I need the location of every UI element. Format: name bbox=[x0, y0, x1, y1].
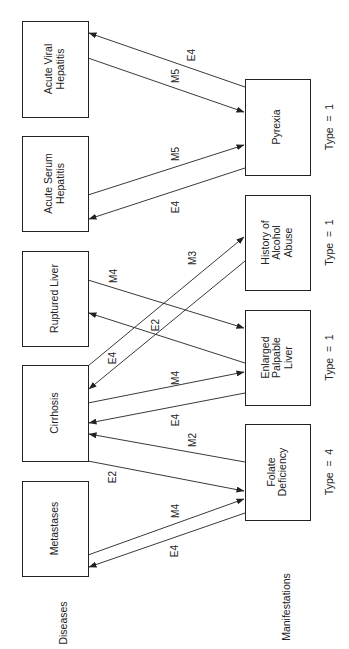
column-label-diseases: Diseases bbox=[57, 601, 69, 644]
column-label-manifestations: Manifestations bbox=[280, 573, 292, 641]
node-label: Liver bbox=[282, 346, 294, 369]
boxes-layer: Acute ViralHepatitisAcute SerumHepatitis… bbox=[23, 22, 335, 577]
type-label: Type = 1 bbox=[323, 334, 335, 381]
node-label: Palpable bbox=[270, 337, 282, 378]
node-label: Hepatitis bbox=[54, 49, 66, 90]
manifestation-node-folate: FolateDeficiencyType = 4 bbox=[246, 425, 335, 521]
edge-pyrexia-to-acute_viral: E4 bbox=[89, 33, 245, 87]
node-label: Enlarged bbox=[259, 336, 271, 378]
labels-layer: Diseases Manifestations bbox=[57, 573, 292, 644]
disease-node-ruptured: Ruptured Liver bbox=[23, 252, 89, 347]
node-label: Abuse bbox=[282, 227, 294, 257]
edge-weight-label: E4 bbox=[107, 351, 118, 364]
edge-weight-label: M2 bbox=[187, 433, 198, 447]
disease-node-acute_serum: Acute SerumHepatitis bbox=[23, 137, 89, 232]
node-label: Pyrexia bbox=[270, 109, 282, 144]
arrow-line bbox=[89, 33, 245, 87]
edge-weight-label: M3 bbox=[187, 251, 198, 265]
node-label: Alcohol bbox=[270, 225, 282, 259]
edge-weight-label: E4 bbox=[170, 413, 181, 426]
edge-pyrexia-to-acute_serum: E4 bbox=[89, 168, 245, 219]
manifestation-node-history: History ofAlcoholAbuseType = 1 bbox=[246, 196, 335, 291]
node-label: Folate bbox=[265, 457, 277, 486]
arrow-line bbox=[88, 280, 244, 328]
type-label: Type = 1 bbox=[323, 104, 335, 151]
arrow-line bbox=[89, 434, 245, 462]
edge-cirrhosis-to-folate: E2 bbox=[88, 461, 244, 491]
edges-layer: E4M5M5E4M4E2M3E4M4E4M2E2M4E4 bbox=[88, 33, 245, 567]
arrow-line bbox=[88, 499, 244, 555]
edge-weight-label: M5 bbox=[170, 69, 181, 83]
edge-weight-label: M4 bbox=[170, 504, 181, 518]
arrow-line bbox=[88, 58, 244, 112]
disease-node-cirrhosis: Cirrhosis bbox=[23, 366, 89, 462]
disease-manifestation-diagram: E4M5M5E4M4E2M3E4M4E4M2E2M4E4 Acute Viral… bbox=[0, 0, 349, 649]
edge-weight-label: M4 bbox=[170, 371, 181, 385]
arrow-line bbox=[89, 513, 245, 567]
node-label: Cirrhosis bbox=[48, 392, 60, 433]
node-label: Deficiency bbox=[276, 447, 288, 496]
disease-node-acute_viral: Acute ViralHepatitis bbox=[23, 22, 89, 118]
node-label: Acute Serum bbox=[42, 153, 54, 214]
disease-node-metastases: Metastases bbox=[23, 482, 89, 577]
edge-acute_viral-to-pyrexia: M5 bbox=[88, 58, 244, 112]
type-label: Type = 4 bbox=[323, 449, 335, 496]
node-label: Metastases bbox=[48, 502, 60, 556]
edge-weight-label: E2 bbox=[107, 470, 118, 483]
arrow-line bbox=[89, 393, 245, 423]
node-label: Hepatitis bbox=[54, 163, 66, 204]
arrow-line bbox=[88, 145, 244, 195]
edge-folate-to-cirrhosis: M2 bbox=[89, 433, 245, 462]
type-label: Type = 1 bbox=[323, 219, 335, 266]
edge-acute_serum-to-pyrexia: M5 bbox=[88, 145, 244, 195]
edge-weight-label: E4 bbox=[169, 544, 180, 557]
edge-weight-label: E2 bbox=[150, 318, 161, 331]
arrow-line bbox=[88, 237, 244, 366]
node-label: Acute Viral bbox=[42, 44, 54, 95]
edge-cirrhosis-to-history: M3 bbox=[88, 237, 244, 366]
edge-weight-label: E4 bbox=[170, 200, 181, 213]
arrow-line bbox=[88, 372, 244, 403]
edge-weight-label: M5 bbox=[170, 147, 181, 161]
edge-metastases-to-folate: M4 bbox=[88, 499, 244, 555]
arrow-line bbox=[89, 168, 245, 219]
edge-ruptured-to-enlarged: M4 bbox=[88, 269, 244, 328]
manifestation-node-pyrexia: PyrexiaType = 1 bbox=[246, 80, 335, 176]
edge-weight-label: E4 bbox=[186, 48, 197, 61]
node-label: History of bbox=[259, 220, 271, 264]
edge-folate-to-metastases: E4 bbox=[89, 513, 245, 567]
edge-weight-label: M4 bbox=[108, 269, 119, 283]
node-label: Ruptured Liver bbox=[48, 264, 60, 333]
manifestation-node-enlarged: EnlargedPalpableLiverType = 1 bbox=[246, 311, 335, 406]
